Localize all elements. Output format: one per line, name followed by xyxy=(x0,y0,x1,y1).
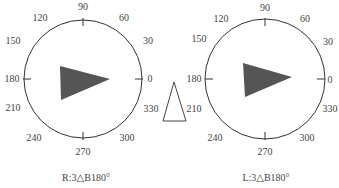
degree-label-180: 180 xyxy=(5,74,20,84)
degree-label-240: 240 xyxy=(27,133,42,143)
degree-label-330: 330 xyxy=(144,104,159,114)
degree-label-270: 270 xyxy=(258,147,273,157)
degree-label-60: 60 xyxy=(119,13,129,23)
base-in-prism-icon xyxy=(60,66,110,100)
degree-label-30: 30 xyxy=(143,36,153,46)
degree-label-120: 120 xyxy=(214,14,229,24)
degree-label-30: 30 xyxy=(323,37,333,47)
degree-label-60: 60 xyxy=(300,14,310,24)
degree-label-210: 210 xyxy=(187,104,202,114)
base-in-prism-icon xyxy=(243,63,292,97)
degree-label-120: 120 xyxy=(33,13,48,23)
degree-label-90: 90 xyxy=(78,2,88,12)
degree-label-210: 210 xyxy=(6,103,21,113)
degree-label-90: 90 xyxy=(260,3,270,13)
left-eye-dial xyxy=(205,18,325,140)
degree-label-150: 150 xyxy=(192,34,207,44)
prism-outline-icon xyxy=(163,82,186,121)
degree-label-150: 150 xyxy=(6,36,21,46)
right-eye-caption: R:3△B180° xyxy=(62,172,110,183)
degree-label-0: 0 xyxy=(148,74,153,84)
left-eye-caption: L:3△B180° xyxy=(242,172,289,183)
degree-label-0: 0 xyxy=(328,75,333,85)
dials-graphic xyxy=(0,0,339,188)
degree-label-240: 240 xyxy=(208,133,223,143)
degree-label-300: 300 xyxy=(120,133,135,143)
degree-label-330: 330 xyxy=(323,104,338,114)
degree-label-270: 270 xyxy=(76,147,91,157)
degree-label-300: 300 xyxy=(300,133,315,143)
degree-label-180: 180 xyxy=(187,74,202,84)
right-eye-dial xyxy=(23,18,143,140)
